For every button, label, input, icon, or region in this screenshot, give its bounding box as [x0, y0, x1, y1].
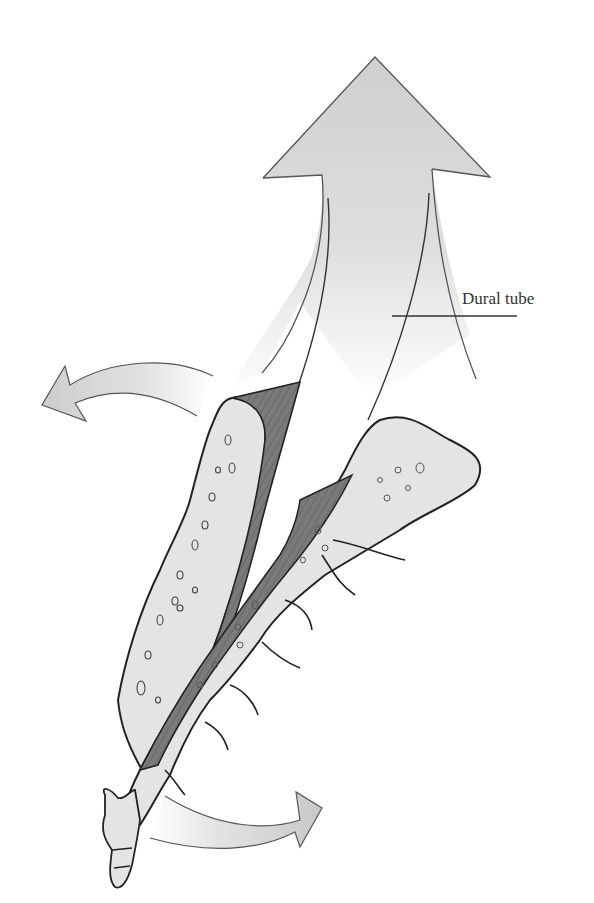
dural-tube-label: Dural tube [462, 289, 534, 309]
anatomical-illustration: Dural tube [0, 0, 594, 903]
right-curved-arrow-icon [150, 792, 322, 848]
coccyx-bone [103, 789, 140, 888]
left-curved-arrow-icon [42, 363, 213, 421]
upward-arrow-icon [230, 57, 490, 420]
